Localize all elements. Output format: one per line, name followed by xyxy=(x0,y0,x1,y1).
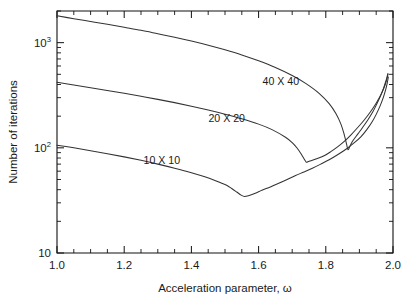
series-label-10-x-10: 10 X 10 xyxy=(144,154,181,166)
y-tick-label: 10 xyxy=(38,247,51,259)
y-axis-tick-labels: 10102103 xyxy=(34,35,51,259)
y-axis-ticks xyxy=(57,11,393,253)
x-axis-title: Acceleration parameter, ω xyxy=(158,282,292,294)
x-tick-label: 1.4 xyxy=(183,259,200,271)
data-series-lines xyxy=(57,16,388,197)
x-tick-label: 1.6 xyxy=(251,259,267,271)
series-line-40-x-40 xyxy=(57,16,388,150)
series-inline-labels: 40 X 4020 X 2010 X 10 xyxy=(144,75,300,166)
x-tick-label: 1.8 xyxy=(318,259,334,271)
x-tick-label: 2.0 xyxy=(385,259,401,271)
series-label-40-x-40: 40 X 40 xyxy=(263,75,300,87)
chart-figure: 1.01.21.41.61.82.0 10102103 40 X 4020 X … xyxy=(0,0,416,307)
axis-frame xyxy=(57,11,393,253)
x-tick-label: 1.2 xyxy=(116,259,132,271)
y-tick-label: 102 xyxy=(34,140,51,154)
series-label-20-x-20: 20 X 20 xyxy=(208,112,245,124)
x-tick-label: 1.0 xyxy=(49,259,65,271)
series-line-10-x-10 xyxy=(57,77,388,196)
iterations-vs-acceleration-parameter-chart: 1.01.21.41.61.82.0 10102103 40 X 4020 X … xyxy=(0,0,416,307)
x-axis-tick-labels: 1.01.21.41.61.82.0 xyxy=(49,259,401,271)
y-tick-label: 103 xyxy=(34,35,51,49)
y-axis-title: Number of iterations xyxy=(7,80,19,184)
x-axis-ticks xyxy=(57,11,393,253)
